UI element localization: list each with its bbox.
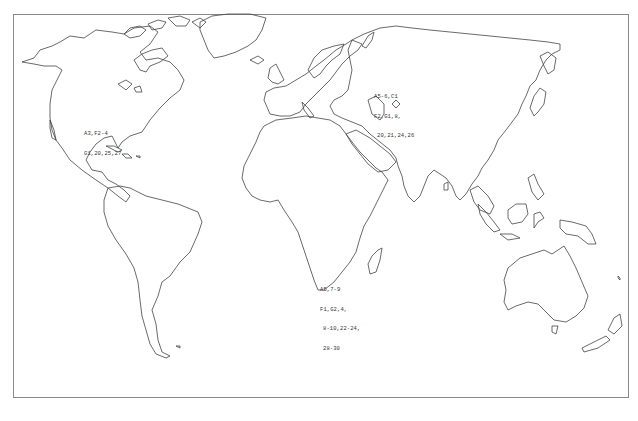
annotation-north-america: A3,F2-4 G1,20,25,27 (84, 118, 121, 164)
madagascar-outline (368, 248, 382, 274)
annotation-line: A3,F2-4 (84, 131, 121, 138)
europe-outline (264, 40, 362, 116)
hudson-bay-outline (134, 48, 168, 72)
annotation-line: 8-10,22-24, (320, 326, 360, 333)
annotation-line: 28-30 (320, 346, 360, 353)
japan-outline (530, 88, 546, 116)
scandinavia-outline (308, 44, 344, 78)
annotation-line: F1,G2,4, (320, 307, 360, 314)
north-america-outline (22, 26, 184, 202)
australia-outline (504, 246, 588, 322)
great-britain-outline (268, 64, 284, 84)
annotation-line: 20,21,24,26 (374, 133, 414, 140)
south-america-outline (104, 186, 202, 358)
annotation-europe: A5-6,C1 F2,G1,8, 20,21,24,26 (374, 81, 414, 146)
annotation-line: F2,G1,8, (374, 114, 414, 121)
africa-outline (242, 116, 388, 290)
asia-outline (330, 26, 560, 202)
baja-outline (50, 120, 56, 140)
annotation-line: G1,20,25,27 (84, 151, 121, 158)
annotation-line: A5-6,C1 (374, 94, 414, 101)
new-zealand-outline (608, 314, 622, 334)
annotation-southern-africa: A5,7-9 F1,G2,4, 8-10,22-24, 28-30 (320, 274, 360, 359)
annotation-line: A5,7-9 (320, 287, 360, 294)
world-map (0, 0, 638, 421)
greenland-outline (200, 14, 266, 58)
new-guinea-outline (560, 220, 596, 244)
